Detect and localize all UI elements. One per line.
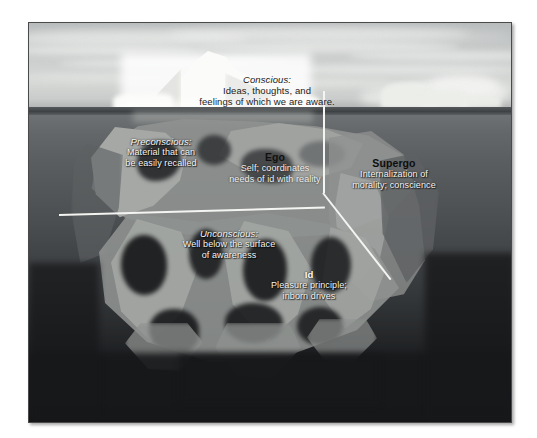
label-unconscious-line1: Well below the surface: [183, 239, 276, 249]
label-unconscious-title: Unconscious:: [149, 228, 309, 239]
figure-page: Conscious: Ideas, thoughts, and feelings…: [0, 0, 537, 438]
label-id-line2: inborn drives: [283, 291, 336, 301]
deep-water-left: [29, 263, 99, 423]
label-id: Id Pleasure principle; inborn drives: [244, 269, 374, 301]
cloud-streak: [169, 27, 469, 41]
deep-water-right: [425, 253, 512, 423]
label-unconscious-line2: of awareness: [202, 250, 257, 260]
label-ego: Ego Self; coordinates needs of id with r…: [210, 151, 340, 185]
label-superego-title: Supergo: [329, 157, 459, 169]
label-conscious: Conscious: Ideas, thoughts, and feelings…: [167, 74, 367, 108]
label-preconscious-line1: Material that can: [127, 147, 195, 157]
label-preconscious-line2: be easily recalled: [125, 158, 196, 168]
label-ego-line1: Self; coordinates: [241, 163, 310, 173]
label-conscious-line1: Ideas, thoughts, and: [223, 85, 311, 96]
label-superego-line1: Internalization of: [360, 169, 428, 179]
label-ego-line2: needs of id with reality: [229, 174, 320, 184]
label-ego-title: Ego: [210, 151, 340, 163]
deep-water-center: [179, 355, 379, 405]
iceberg-photograph: Conscious: Ideas, thoughts, and feelings…: [28, 22, 512, 423]
label-superego: Supergo Internalization of morality; con…: [329, 157, 459, 191]
label-superego-line2: morality; conscience: [352, 180, 436, 190]
label-id-title: Id: [244, 269, 374, 280]
label-conscious-line2: feelings of which we are aware.: [199, 96, 335, 107]
label-preconscious-title: Preconscious:: [91, 136, 231, 147]
label-id-line1: Pleasure principle;: [271, 280, 347, 290]
label-conscious-title: Conscious:: [167, 74, 367, 85]
label-unconscious: Unconscious: Well below the surface of a…: [149, 228, 309, 260]
